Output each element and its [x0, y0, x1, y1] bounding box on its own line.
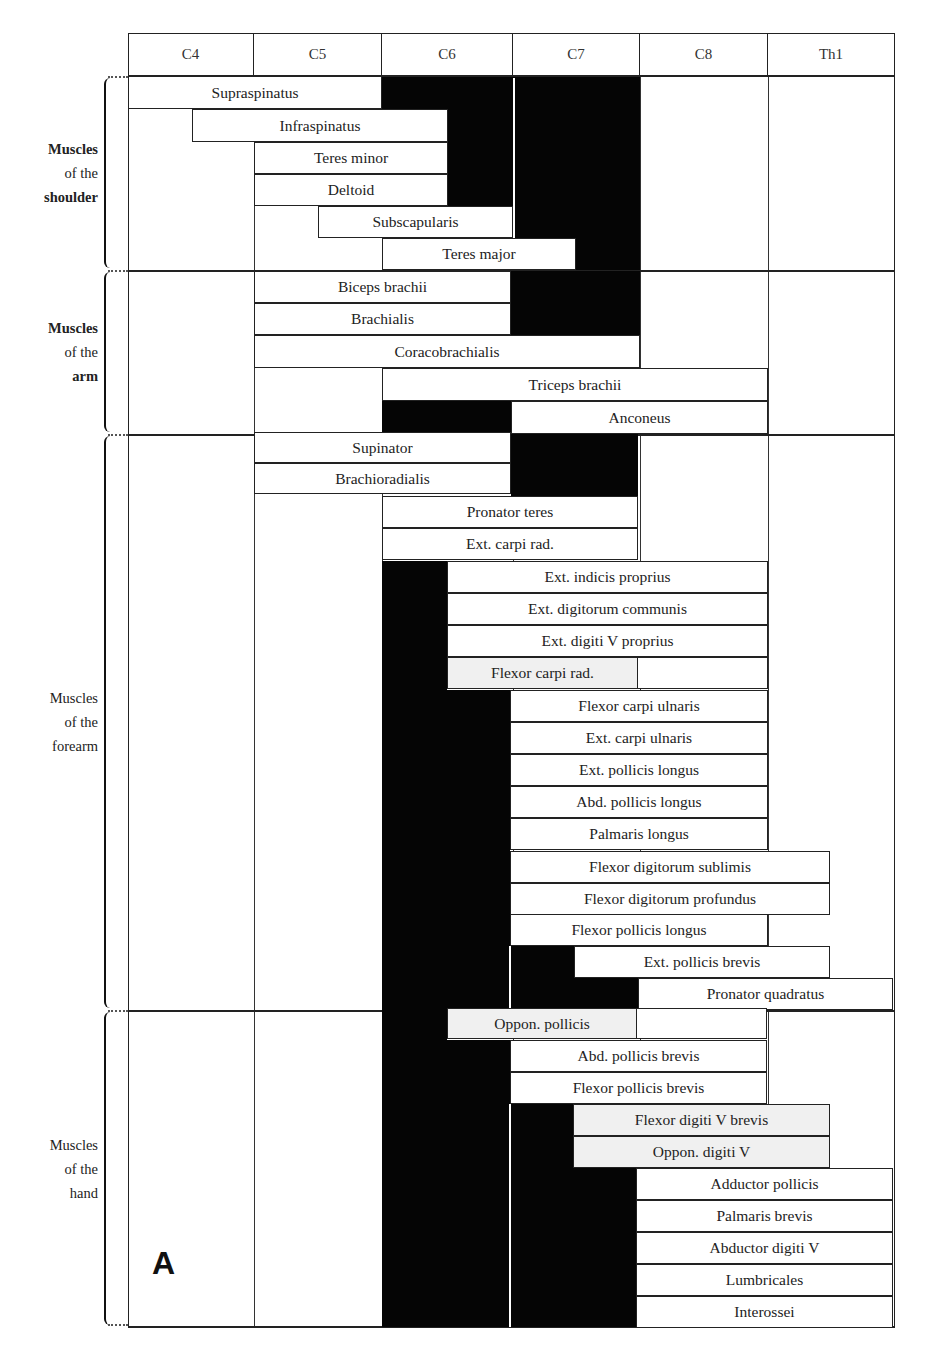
group-label-line: Muscles	[3, 137, 98, 161]
main-root-block	[510, 978, 638, 1010]
group-label-line: arm	[3, 364, 98, 388]
muscle-row-ext-pollicis-longus: Ext. pollicis longus	[510, 754, 768, 786]
main-root-block	[511, 271, 640, 335]
group-brace	[104, 1012, 112, 1325]
innervation-chart: C4C5C6C7C8Th1 SupraspinatusInfraspinatus…	[0, 0, 932, 1358]
main-root-block	[513, 206, 576, 238]
muscle-row-biceps-brachii: Biceps brachii	[254, 271, 511, 303]
muscle-row-coracobrachialis: Coracobrachialis	[254, 335, 640, 368]
panel-label: A	[152, 1245, 175, 1282]
muscle-row-triceps-brachii: Triceps brachii	[382, 368, 768, 401]
muscle-row-ext-indicis-proprius: Ext. indicis proprius	[447, 561, 768, 593]
main-root-block	[382, 561, 447, 690]
column-divider	[254, 75, 255, 1327]
main-root-block	[382, 690, 510, 1010]
muscle-row-anconeus: Anconeus	[511, 401, 768, 434]
muscle-row-flexor-carpi-rad: Flexor carpi rad.	[447, 657, 638, 689]
muscle-row-palmaris-longus: Palmaris longus	[510, 818, 768, 850]
group-label-line: of the	[3, 710, 98, 734]
muscle-row-brachialis: Brachialis	[254, 303, 511, 335]
muscle-row-brachioradialis: Brachioradialis	[254, 463, 511, 494]
main-root-block	[510, 1104, 573, 1168]
main-root-block	[510, 946, 574, 978]
group-label-forearm: Musclesof theforearm	[3, 686, 98, 758]
group-label-line: forearm	[3, 734, 98, 758]
group-label-arm: Musclesof thearm	[3, 316, 98, 388]
muscle-row-infraspinatus: Infraspinatus	[192, 109, 448, 142]
muscle-row-flexor-carpi-ulnaris: Flexor carpi ulnaris	[510, 690, 768, 722]
main-root-block	[511, 432, 638, 496]
group-label-shoulder: Musclesof theshoulder	[3, 137, 98, 209]
muscle-row-flexor-pollicis-brevis: Flexor pollicis brevis	[510, 1072, 767, 1104]
muscle-row-abductor-digiti-v: Abductor digiti V	[636, 1232, 893, 1264]
main-root-block	[382, 401, 511, 432]
muscle-row-palmaris-brevis: Palmaris brevis	[636, 1200, 893, 1232]
muscle-extension-box	[636, 1008, 767, 1039]
main-root-block	[382, 1008, 447, 1040]
group-label-line: of the	[3, 340, 98, 364]
group-brace-tick	[108, 270, 128, 272]
muscle-row-abd-pollicis-longus: Abd. pollicis longus	[510, 786, 768, 818]
muscle-row-supinator: Supinator	[254, 432, 511, 463]
muscle-row-abd-pollicis-brevis: Abd. pollicis brevis	[510, 1040, 767, 1072]
muscle-row-supraspinatus: Supraspinatus	[128, 76, 382, 109]
group-label-line: hand	[3, 1181, 98, 1205]
column-header-c7: C7	[513, 33, 640, 75]
group-brace-tick	[108, 1010, 128, 1012]
group-brace-tick	[108, 76, 128, 78]
group-label-line: Muscles	[3, 316, 98, 340]
group-brace-tick	[108, 434, 128, 436]
chart-bottom-tick	[108, 1324, 128, 1326]
column-header-c5: C5	[254, 33, 382, 75]
muscle-row-oppon-digiti-v: Oppon. digiti V	[573, 1136, 830, 1168]
muscle-row-flexor-digitorum-profundus: Flexor digitorum profundus	[510, 883, 830, 915]
column-header-c4: C4	[128, 33, 254, 75]
group-brace	[104, 436, 112, 1008]
muscle-row-flexor-digiti-v-brevis: Flexor digiti V brevis	[573, 1104, 830, 1136]
main-root-block	[576, 238, 640, 270]
muscle-row-adductor-pollicis: Adductor pollicis	[636, 1168, 893, 1200]
muscle-row-teres-major: Teres major	[382, 238, 576, 270]
group-label-hand: Musclesof thehand	[3, 1133, 98, 1205]
muscle-row-deltoid: Deltoid	[254, 174, 448, 206]
group-label-line: of the	[3, 161, 98, 185]
column-header-c6: C6	[382, 33, 513, 75]
muscle-row-ext-digitorum-communis: Ext. digitorum communis	[447, 593, 768, 625]
group-brace	[104, 272, 112, 432]
muscle-extension-box	[637, 657, 768, 689]
muscle-row-ext-carpi-ulnaris: Ext. carpi ulnaris	[510, 722, 768, 754]
column-header-c8: C8	[640, 33, 768, 75]
group-label-line: Muscles	[3, 1133, 98, 1157]
muscle-row-oppon-pollicis: Oppon. pollicis	[447, 1008, 637, 1039]
muscle-row-ext-carpi-rad: Ext. carpi rad.	[382, 528, 638, 560]
group-label-line: Muscles	[3, 686, 98, 710]
group-brace	[104, 78, 112, 268]
muscle-row-flexor-digitorum-sublimis: Flexor digitorum sublimis	[510, 851, 830, 883]
muscle-row-pronator-quadratus: Pronator quadratus	[638, 978, 893, 1010]
muscle-row-ext-pollicis-brevis: Ext. pollicis brevis	[574, 946, 830, 978]
column-header-th1: Th1	[768, 33, 895, 75]
main-root-block	[510, 1168, 636, 1327]
group-label-line: shoulder	[3, 185, 98, 209]
segment-separator	[509, 1104, 511, 1327]
muscle-row-subscapularis: Subscapularis	[318, 206, 513, 238]
segment-separator	[509, 946, 511, 1010]
muscle-row-pronator-teres: Pronator teres	[382, 496, 638, 528]
main-root-block	[382, 1040, 510, 1327]
muscle-row-flexor-pollicis-longus: Flexor pollicis longus	[510, 914, 768, 946]
muscle-row-teres-minor: Teres minor	[254, 142, 448, 174]
muscle-row-ext-digiti-v-proprius: Ext. digiti V proprius	[447, 625, 768, 657]
group-label-line: of the	[3, 1157, 98, 1181]
muscle-row-interossei: Interossei	[636, 1296, 893, 1328]
muscle-row-lumbricales: Lumbricales	[636, 1264, 893, 1296]
